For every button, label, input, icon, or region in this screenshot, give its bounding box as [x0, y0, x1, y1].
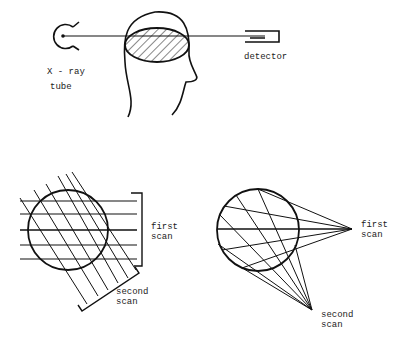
top-panel: detector X - ray tube	[47, 12, 287, 117]
right-first-scan-label-line1: first	[361, 220, 388, 230]
right-first-scan-label-line2: scan	[361, 230, 383, 240]
right-second-scan-label-line2: scan	[321, 320, 343, 330]
fan-scan-panel	[217, 189, 352, 310]
detector-label: detector	[244, 52, 287, 62]
right-second-scan-label-line1: second	[321, 310, 353, 320]
left-second-scan-label-line1: second	[116, 287, 148, 297]
xray-tube-label-line1: X - ray	[47, 67, 85, 77]
ct-scan-diagram: detector X - ray tube first scan second …	[0, 0, 398, 338]
left-first-scan-label-line2: scan	[151, 232, 173, 242]
xray-tube-label-line2: tube	[50, 82, 72, 92]
left-second-scan-label-line2: scan	[116, 297, 138, 307]
left-first-scan-label-line1: first	[151, 222, 178, 232]
hatched-slice	[125, 28, 189, 62]
